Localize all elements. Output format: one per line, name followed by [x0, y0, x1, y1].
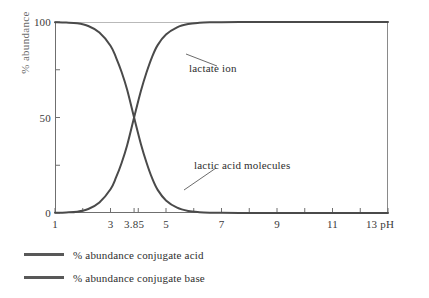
x-tick-label: 9: [274, 218, 280, 230]
legend-label: % abundance conjugate base: [73, 272, 205, 284]
x-tick-label: 5: [163, 218, 169, 230]
y-tick-label: 50: [40, 112, 51, 124]
legend-item: % abundance conjugate base: [24, 266, 404, 289]
legend-label: % abundance conjugate acid: [73, 249, 204, 261]
axis-ticks: [55, 22, 388, 213]
annotation-lactic-acid: lactic acid molecules: [194, 159, 290, 171]
curve-canvas: [55, 22, 388, 213]
y-axis-tick-labels: 100500: [20, 22, 51, 213]
x-tick-label: 3: [108, 218, 114, 230]
x-tick-label: 11: [327, 218, 338, 230]
legend: % abundance conjugate acid% abundance co…: [24, 243, 404, 289]
chart-figure: % abundance 100500 133.855791113 pH lact…: [0, 0, 429, 298]
x-tick-label: 3.85: [124, 218, 144, 230]
annotation-lactate-ion: lactate ion: [189, 62, 237, 74]
x-tick-label: 13 pH: [366, 218, 394, 230]
legend-swatch-line-icon: [24, 276, 64, 279]
legend-swatch-line-icon: [24, 253, 64, 256]
curve-series-0: [55, 22, 388, 213]
y-tick-label: 0: [45, 207, 51, 219]
legend-item: % abundance conjugate acid: [24, 243, 404, 266]
x-tick-label: 1: [52, 218, 58, 230]
y-tick-label: 100: [34, 16, 51, 28]
x-tick-label: 7: [219, 218, 225, 230]
leader-line-lactic-acid: [184, 168, 216, 190]
plot-area: [55, 22, 388, 213]
x-axis-tick-labels: 133.855791113 pH: [55, 218, 388, 234]
curve-series-1: [55, 22, 388, 213]
